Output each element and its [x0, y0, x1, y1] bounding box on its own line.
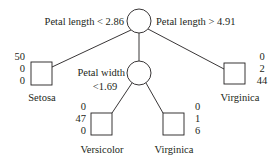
leaf-count: 0: [81, 125, 86, 136]
edge-inner-virginica: [146, 83, 163, 113]
leaf-count: 44: [257, 75, 268, 86]
leaf-count: 0: [20, 63, 25, 74]
leaf-count: 1: [195, 113, 200, 124]
leaf-versicolor: 0 47 0 Versicolor: [76, 101, 125, 155]
leaf-setosa: 50 0 0 Setosa: [15, 51, 57, 103]
leaf-count: 0: [20, 75, 25, 86]
leaf-count: 0: [259, 51, 264, 62]
leaf-label: Setosa: [28, 92, 56, 103]
leaf-count: 0: [81, 101, 86, 112]
leaf-label: Virginica: [221, 92, 260, 103]
inner-split-node: [127, 61, 151, 85]
edge-root-virginica: [148, 29, 224, 69]
inner-condition-line1: Petal width: [77, 67, 125, 78]
leaf-box: [31, 62, 52, 85]
leaf-count: 6: [195, 125, 200, 136]
root-right-condition: Petal length > 4.91: [156, 16, 235, 27]
leaf-label: Virginica: [155, 144, 194, 155]
leaf-virginica-inner: 0 1 6 Virginica: [155, 101, 201, 155]
leaf-box: [91, 113, 112, 135]
leaf-label: Versicolor: [80, 144, 124, 155]
leaf-count: 50: [15, 51, 26, 62]
edge-root-setosa: [52, 30, 131, 67]
leaf-virginica-right: 0 2 44 Virginica: [221, 51, 268, 103]
inner-condition-line2: <1.69: [93, 81, 117, 92]
leaf-box: [163, 113, 184, 135]
leaf-count: 47: [76, 113, 87, 124]
decision-tree-diagram: Petal length < 2.86 Petal length > 4.91 …: [0, 0, 278, 161]
leaf-box: [224, 63, 245, 84]
leaf-count: 2: [259, 63, 264, 74]
root-split-node: [127, 9, 151, 33]
root-left-condition: Petal length < 2.86: [45, 16, 124, 27]
leaf-count: 0: [195, 101, 200, 112]
